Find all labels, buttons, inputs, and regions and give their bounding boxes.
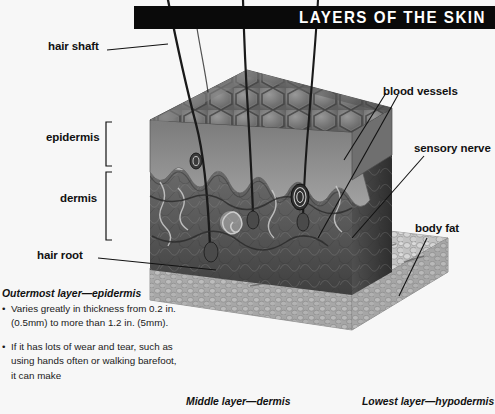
note-bullet: Varies greatly in thickness from 0.2 in.… [2,302,182,331]
label-hair-shaft: hair shaft [48,40,99,52]
epidermis-bracket [106,122,112,166]
label-blood-vessels: blood vessels [383,85,458,97]
note-heading-epidermis: Outermost layer—epidermis [2,288,141,299]
note-heading-dermis: Middle layer—dermis [186,396,291,407]
layer-brackets [106,122,112,240]
note-heading-hypodermis: Lowest layer—hypodermis [362,396,494,407]
label-body-fat: body fat [415,222,459,234]
dermis-bracket [106,172,112,240]
skin-diagram-page: LAYERS OF THE SKIN hair shaft epidermis … [0,0,495,414]
note-list-epidermis: Varies greatly in thickness from 0.2 in.… [2,302,182,392]
label-hair-root: hair root [37,249,83,261]
page-title: LAYERS OF THE SKIN [162,6,486,29]
label-dermis: dermis [60,192,97,204]
note-bullet: If it has lots of wear and tear, such as… [2,340,182,383]
label-sensory-nerve: sensory nerve [414,142,491,154]
label-epidermis: epidermis [46,131,99,143]
